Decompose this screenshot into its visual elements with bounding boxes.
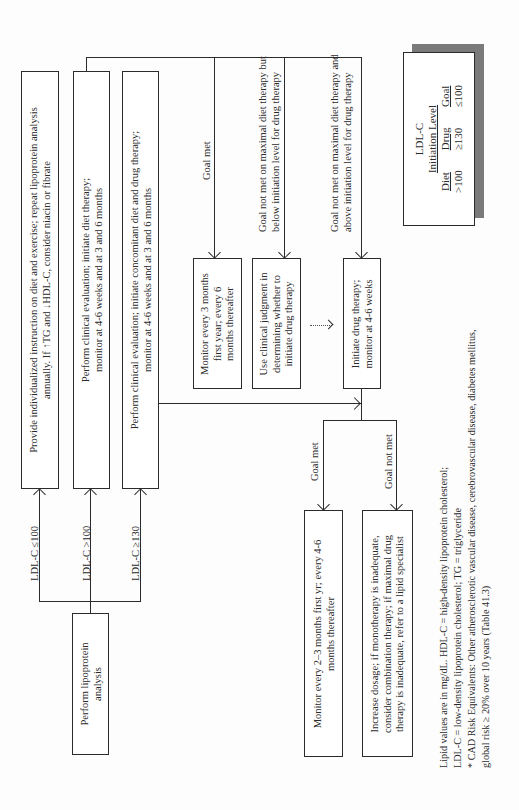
arrowhead-icon [84,488,97,501]
arrowhead-icon [278,246,291,259]
connector [159,403,361,404]
arrow-drug-goal-not-met [396,420,397,510]
outcome-label: Goal not met on maximal diet therapy but… [256,56,282,232]
action-text: Initiate drug therapy; monitor at 4-6 we… [350,279,375,368]
action-text: Provide individualized instruction on di… [28,107,53,453]
arrowhead-icon [390,498,403,511]
footnote: LDL-C = low-density lipoprotein choleste… [451,508,464,768]
clinical-judgment-box: Use clinical judgment in determining whe… [252,258,301,389]
action-text: Monitor every 3 months first year; every… [199,273,237,375]
increase-dosage-box: Increase dosage; if monotherapy is inade… [362,510,413,757]
outcome-label: Goal not met on maximal diet therapy and… [328,54,354,232]
action-box-ldl-gt100: Perform clinical evaluation; initiate di… [73,71,110,489]
legend-header: Goal [439,86,452,107]
footnote: global risk ≥ 20% over 10 years (Table 4… [479,586,492,768]
legend-subtitle: Initiation Level [426,85,439,193]
legend-box: LDL-C Initiation Level Diet >100 Drug ≥1… [403,52,475,226]
legend-columns: Diet >100 Drug ≥130 Goal ≤100 [439,85,465,193]
footnote: Lipid values are in mg/dL. HDL-C = high-… [437,467,450,768]
connector [86,57,87,71]
arrow-goal-not-met-below [284,57,285,258]
start-box: Perform lipoprotein analysis [72,613,109,755]
start-text: Perform lipoprotein analysis [78,642,103,725]
monitor-3mo-box: Monitor every 3 months first year; every… [193,258,242,389]
outcome-label: Goal met [201,141,212,180]
connector [86,57,362,58]
legend-value: >100 [452,170,465,193]
legend-header: Drug [439,128,452,151]
footnote: * CAD Risk Equivalents: Other atheroscle… [465,330,478,769]
action-text: Increase dosage; if monotherapy is inade… [369,535,407,733]
action-text: Use clinical judgment in determining whe… [258,272,296,375]
connector [361,389,362,421]
connector [323,420,397,421]
action-box-ldl-ge130: Perform clinical evaluation; initiate co… [122,71,159,489]
legend-value: ≤100 [452,85,465,108]
initiate-drug-box: Initiate drug therapy; monitor at 4-6 we… [343,258,381,389]
arrowhead-icon [348,397,361,410]
legend-header: Diet [439,172,452,191]
action-text: Perform clinical evaluation; initiate co… [128,131,153,430]
arrowhead-icon [208,246,221,259]
arrowhead-icon [317,498,330,511]
legend-col-goal: Goal ≤100 [439,85,465,108]
monitor-2-3mo-box: Monitor every 2–3 months first yr; every… [304,510,343,757]
arrowhead-icon [134,488,147,501]
outcome-label: Goal met [309,442,320,481]
arrow-goal-met [214,57,215,258]
legend-title: LDL-C [413,85,426,193]
connector [90,601,91,613]
legend-content: LDL-C Initiation Level Diet >100 Drug ≥1… [413,85,465,193]
action-text: Monitor every 2–3 months first yr; every… [311,539,336,728]
outcome-label: Goal not met [383,434,394,489]
action-text: Perform clinical evaluation; initiate di… [79,178,104,382]
arrowhead-icon [355,246,368,259]
branch-label: LDL-C >100 [81,526,92,581]
flowchart-canvas: Perform lipoprotein analysis LDL-C ≤100 … [0,0,519,810]
arrowhead-icon [33,488,46,501]
legend-col-drug: Drug ≥130 [439,128,465,151]
legend-value: ≥130 [452,128,465,151]
arrow-drug-goal-met [323,420,324,510]
arrowhead-icon [324,320,334,330]
action-box-ldl-le100: Provide individualized instruction on di… [21,71,59,489]
legend-col-diet: Diet >100 [439,170,465,193]
connector [39,601,141,602]
branch-label: LDL-C ≤100 [29,526,40,581]
branch-label: LDL-C ≥130 [130,526,141,581]
arrow-goal-not-met-above [361,57,362,258]
